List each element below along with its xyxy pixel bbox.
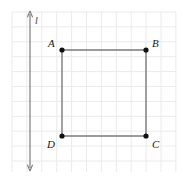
vertex-point-d	[59, 133, 64, 138]
vertex-label-a: A	[48, 38, 55, 49]
vertex-label-d: D	[47, 139, 55, 150]
square-edges	[62, 50, 146, 136]
vertex-points	[59, 47, 148, 138]
line-l	[27, 11, 32, 171]
vertex-point-b	[143, 47, 148, 52]
vertex-label-c: C	[152, 139, 159, 150]
geometry-figure: l A B C D	[0, 0, 190, 182]
geometry-canvas	[0, 0, 190, 182]
vertex-point-a	[59, 47, 64, 52]
line-l-label: l	[35, 16, 38, 26]
vertex-label-b: B	[152, 38, 159, 49]
vertex-point-c	[143, 133, 148, 138]
